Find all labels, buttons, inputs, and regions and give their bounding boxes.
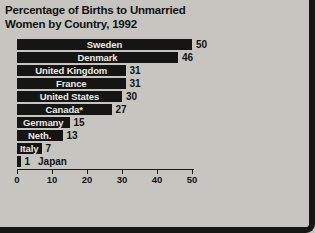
axis-tick-label: 40	[152, 174, 163, 185]
axis-tick-label: 50	[187, 174, 198, 185]
bar: Italy	[17, 143, 42, 154]
bar-row: Neth.13	[17, 129, 219, 142]
bar-value: 46	[182, 52, 193, 63]
bar-value: 1	[25, 156, 31, 167]
bar-row: Canada*27	[17, 103, 219, 116]
bar-value: 31	[130, 65, 141, 76]
chart-title-line2: Women by Country, 1992	[5, 17, 219, 31]
bar-row: United States30	[17, 90, 219, 103]
bar-value: 7	[46, 143, 52, 154]
bar-value: 31	[130, 78, 141, 89]
bar: Sweden	[17, 39, 192, 50]
bar-row: Sweden50	[17, 38, 219, 51]
bar-chart: Sweden50Denmark46United Kingdom31France3…	[17, 38, 219, 168]
bar-value: 27	[116, 104, 127, 115]
bar-row: 1Japan	[17, 155, 219, 168]
bar-value: 50	[196, 39, 207, 50]
bar: Canada*	[17, 104, 112, 115]
bar-row: Germany15	[17, 116, 219, 129]
bar: Denmark	[17, 52, 178, 63]
x-axis: 01020304050	[17, 168, 219, 186]
bar: United Kingdom	[17, 65, 126, 76]
bar	[17, 156, 21, 167]
chart-title-line1: Percentage of Births to Unmarried	[5, 3, 219, 17]
bar-name-label: Japan	[38, 156, 67, 167]
bar-row: France31	[17, 77, 219, 90]
bar-row: Denmark46	[17, 51, 219, 64]
axis-line	[17, 169, 194, 170]
axis-tick-label: 10	[47, 174, 58, 185]
bar: Neth.	[17, 130, 63, 141]
bar: Germany	[17, 117, 70, 128]
bar-row: United Kingdom31	[17, 64, 219, 77]
bar-row: Italy7	[17, 142, 219, 155]
chart-panel: Percentage of Births to Unmarried Women …	[0, 0, 219, 201]
bar: United States	[17, 91, 122, 102]
axis-tick-label: 30	[117, 174, 128, 185]
axis-tick-label: 0	[14, 174, 19, 185]
bar-value: 30	[126, 91, 137, 102]
axis-tick-label: 20	[82, 174, 93, 185]
bar: France	[17, 78, 126, 89]
chart-title: Percentage of Births to Unmarried Women …	[0, 0, 219, 31]
bar-value: 13	[67, 130, 78, 141]
bar-value: 15	[74, 117, 85, 128]
